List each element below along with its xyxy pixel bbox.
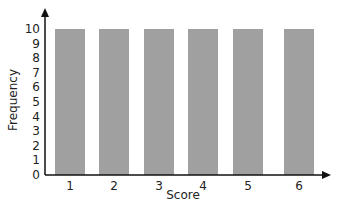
x-tick-label: 5 bbox=[244, 179, 252, 193]
y-tick-label: 8 bbox=[32, 51, 40, 65]
y-tick-label: 4 bbox=[32, 110, 40, 124]
x-tick-label: 1 bbox=[66, 179, 74, 193]
y-tick-label: 1 bbox=[32, 153, 40, 167]
x-tick-label: 4 bbox=[199, 179, 207, 193]
bar bbox=[284, 29, 314, 175]
bar bbox=[233, 29, 263, 175]
bar bbox=[144, 29, 174, 175]
y-tick-label: 3 bbox=[32, 124, 40, 138]
x-tick-label: 3 bbox=[155, 179, 163, 193]
y-tick-label: 10 bbox=[25, 22, 40, 36]
y-axis-arrow-icon bbox=[41, 8, 49, 17]
y-tick-label: 6 bbox=[32, 80, 40, 94]
bar bbox=[99, 29, 129, 175]
y-tick-labels: 012345678910 bbox=[25, 22, 40, 182]
y-tick-label: 5 bbox=[32, 95, 40, 109]
x-axis-arrow-icon bbox=[322, 171, 331, 179]
bar bbox=[188, 29, 218, 175]
y-tick-label: 7 bbox=[32, 66, 40, 80]
bars bbox=[55, 29, 314, 175]
x-axis-label: Score bbox=[166, 188, 200, 202]
bar bbox=[55, 29, 85, 175]
y-tick-label: 9 bbox=[32, 37, 40, 51]
y-axis-label: Frequency bbox=[6, 69, 20, 131]
bar-chart: 012345678910 123456 Score Frequency bbox=[0, 0, 338, 209]
y-tick-label: 2 bbox=[32, 139, 40, 153]
y-tick-label: 0 bbox=[32, 168, 40, 182]
x-tick-label: 6 bbox=[295, 179, 303, 193]
x-tick-label: 2 bbox=[110, 179, 118, 193]
